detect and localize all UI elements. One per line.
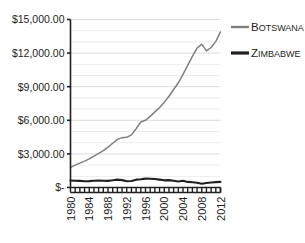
x-axis-label: 2000 — [158, 197, 170, 221]
y-axis-label: $3,000.00 — [18, 148, 65, 160]
chart-container: $15,000.00$12,000.00$9,000.00$6,000.00$3… — [0, 0, 305, 243]
x-axis-label: 1992 — [121, 197, 133, 221]
x-axis-label: 2004 — [177, 197, 189, 221]
legend-label-botswana: BOTSWANA — [251, 21, 304, 33]
y-axis-label: $6,000.00 — [18, 114, 65, 126]
x-axis-label: 1988 — [102, 197, 114, 221]
y-axis-label: $15,000.00 — [12, 13, 65, 25]
y-axis-label: $9,000.00 — [18, 81, 65, 93]
x-axis-label: 2012 — [215, 197, 227, 221]
legend-label-zimbabwe: ZIMBABWE — [251, 47, 301, 59]
x-axis-label: 1996 — [140, 197, 152, 221]
y-axis-label: $- — [55, 181, 65, 193]
x-axis-label: 1984 — [83, 197, 95, 221]
x-axis-labels: 198019841988199219962000200420082012 — [65, 197, 227, 221]
x-axis-label: 1980 — [65, 197, 77, 221]
y-axis-label: $12,000.00 — [12, 47, 65, 59]
line-chart: $15,000.00$12,000.00$9,000.00$6,000.00$3… — [0, 0, 305, 243]
x-axis-label: 2008 — [196, 197, 208, 221]
